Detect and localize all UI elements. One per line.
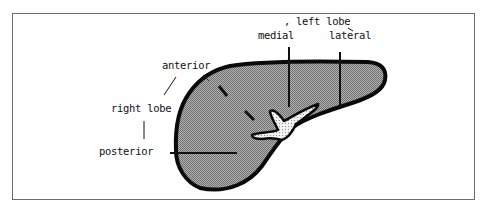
label-left-lobe: , left lobe <box>284 15 350 27</box>
anterior-leader <box>164 77 176 95</box>
label-medial: medial <box>258 29 294 41</box>
label-anterior: anterior <box>162 59 210 71</box>
liver-diagram <box>0 0 483 207</box>
label-right-lobe: right lobe <box>111 102 171 114</box>
label-lateral: lateral <box>329 29 371 41</box>
label-posterior: posterior <box>99 145 153 157</box>
